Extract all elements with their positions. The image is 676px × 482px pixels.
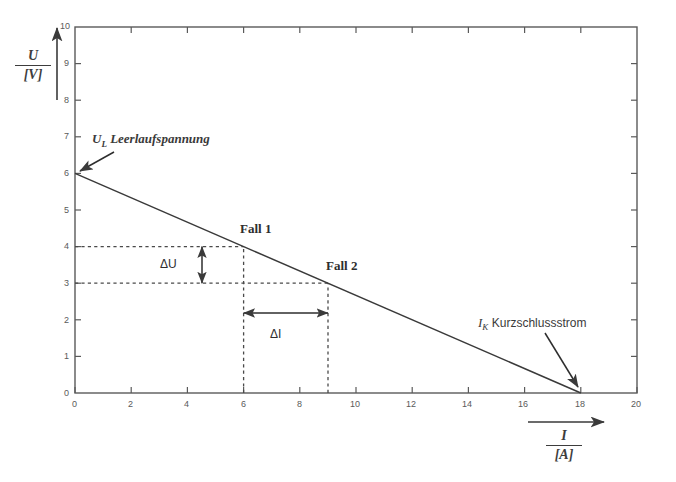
y-axis-title-numerator: U bbox=[15, 48, 51, 65]
x-axis-ticks bbox=[75, 387, 637, 393]
open-circuit-leader-arrow bbox=[80, 152, 114, 171]
y-axis-title-denominator: [V] bbox=[15, 65, 51, 83]
y-tick-label-9: 9 bbox=[64, 59, 69, 68]
short-circuit-subscript: K bbox=[482, 322, 488, 332]
y-tick-label-10: 10 bbox=[60, 22, 70, 31]
y-tick-label-8: 8 bbox=[64, 96, 69, 105]
x-tick-label-6: 6 bbox=[241, 400, 246, 409]
x-tick-label-0: 0 bbox=[72, 400, 77, 409]
y-tick-label-2: 2 bbox=[64, 316, 69, 325]
open-circuit-symbol: U bbox=[92, 131, 101, 146]
x-tick-label-18: 18 bbox=[575, 400, 585, 409]
x-tick-label-16: 16 bbox=[518, 400, 528, 409]
y-axis-title: U [V] bbox=[15, 48, 51, 83]
x-tick-label-4: 4 bbox=[184, 400, 189, 409]
y-tick-label-5: 5 bbox=[64, 206, 69, 215]
open-circuit-subscript: L bbox=[101, 139, 107, 149]
x-axis-title-numerator: I bbox=[546, 428, 582, 445]
x-tick-label-14: 14 bbox=[462, 400, 472, 409]
x-axis-title-denominator: [A] bbox=[546, 445, 582, 463]
delta-u-label: ΔU bbox=[160, 258, 177, 270]
top-axis-ticks bbox=[131, 27, 581, 33]
figure-canvas: 10 9 8 7 6 5 4 3 2 1 0 0 2 4 6 8 10 12 1… bbox=[0, 0, 676, 482]
x-tick-label-12: 12 bbox=[406, 400, 416, 409]
open-circuit-annotation: UL Leerlaufspannung bbox=[92, 132, 210, 149]
y-tick-label-0: 0 bbox=[64, 389, 69, 398]
x-tick-label-20: 20 bbox=[631, 400, 641, 409]
y-tick-label-1: 1 bbox=[64, 352, 69, 361]
y-tick-label-4: 4 bbox=[64, 242, 69, 251]
y-axis-ticks bbox=[75, 64, 81, 357]
case-1-label: Fall 1 bbox=[240, 222, 271, 235]
x-tick-label-10: 10 bbox=[350, 400, 360, 409]
case-2-label: Fall 2 bbox=[326, 259, 357, 272]
delta-i-label: ΔI bbox=[270, 328, 281, 340]
x-axis-title: I [A] bbox=[546, 428, 582, 463]
x-tick-label-2: 2 bbox=[128, 400, 133, 409]
y-tick-label-6: 6 bbox=[64, 169, 69, 178]
chart-svg bbox=[0, 0, 676, 482]
open-circuit-text: Leerlaufspannung bbox=[110, 131, 210, 146]
right-axis-ticks bbox=[631, 64, 637, 357]
short-circuit-text: Kurzschlussstrom bbox=[492, 316, 587, 330]
y-tick-label-3: 3 bbox=[64, 279, 69, 288]
y-tick-label-7: 7 bbox=[64, 132, 69, 141]
short-circuit-annotation: IK Kurzschlussstrom bbox=[478, 316, 586, 332]
x-tick-label-8: 8 bbox=[297, 400, 302, 409]
